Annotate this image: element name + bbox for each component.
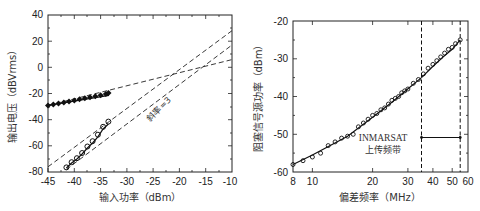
x-tick: -10 [223,176,238,187]
y-tick: -40 [29,114,44,125]
slope3-lower-line [66,45,232,169]
third-order-markers [64,119,111,170]
x-tick: 50 [447,176,459,187]
y-tick: -20 [29,88,44,99]
y-tick: -40 [274,91,289,102]
x-tick: 30 [402,176,414,187]
y-tick: 0 [37,62,43,73]
y-tick: -30 [274,53,289,64]
band-annotation-1: INMARSAT [359,133,408,143]
left-x-axis-label: 输入功率（dBm） [99,191,182,203]
fundamental-markers [45,90,112,108]
right-chart: -20 -30 -40 -50 -60 8 10 20 30 40 50 60 … [252,16,474,204]
x-tick: -20 [172,176,187,187]
y-tick: -60 [274,167,289,178]
left-chart: 40 20 0 -20 -40 -60 -80 -45 -40 -35 -30 … [6,9,238,203]
right-x-axis-label: 偏差频率（MHz） [339,191,420,203]
x-tick: 20 [367,176,379,187]
slope-annotation: 斜率=3 [144,95,173,124]
x-tick: -25 [146,176,161,187]
x-tick: -35 [93,176,108,187]
band-annotation-2: 上传频带 [365,144,401,155]
figure: 40 20 0 -20 -40 -60 -80 -45 -40 -35 -30 … [0,0,480,211]
x-tick: 40 [427,176,439,187]
y-tick: 40 [32,9,44,20]
right-y-axis-label: 阻塞信号源功率（dBm） [252,40,264,153]
y-tick: -20 [274,16,289,27]
x-tick: -45 [41,176,56,187]
y-tick: -50 [274,129,289,140]
x-tick: 8 [290,176,296,187]
x-tick: -15 [198,176,213,187]
x-tick: 10 [307,176,319,187]
y-tick: 20 [32,36,44,47]
x-tick: -30 [120,176,135,187]
left-y-axis-label: 输出电压（dBVrms） [6,45,18,144]
y-tick: -60 [29,140,44,151]
left-plot-frame [48,15,232,172]
x-tick: 60 [462,176,474,187]
x-tick: -40 [67,176,82,187]
